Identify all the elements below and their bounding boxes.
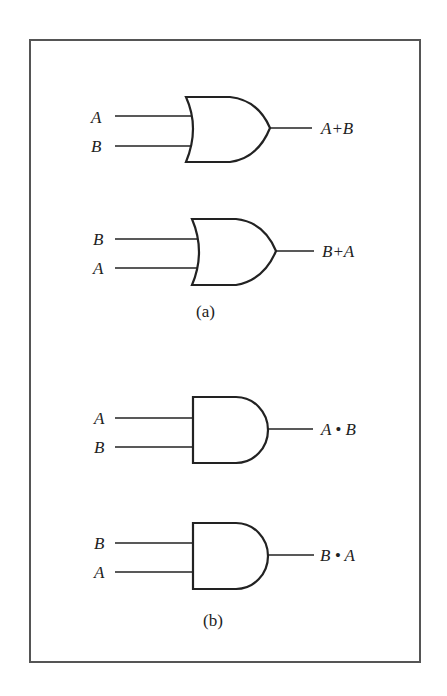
- and-gate-1: [115, 397, 313, 463]
- and1-output: A • B: [321, 421, 356, 438]
- and-gate-2: [115, 523, 314, 589]
- caption-b: (b): [203, 612, 223, 629]
- logic-diagram: [0, 0, 447, 696]
- or2-input-b: B: [93, 231, 103, 248]
- and1-input-a: A: [94, 410, 104, 427]
- or-gate-1: [115, 97, 312, 162]
- figure-frame: [30, 40, 420, 662]
- and2-input-b: B: [94, 535, 104, 552]
- and2-input-a: A: [94, 564, 104, 581]
- or2-output: B+A: [322, 243, 354, 260]
- or-gate-2: [115, 219, 314, 285]
- or1-input-a: A: [91, 109, 101, 126]
- or1-input-b: B: [91, 138, 101, 155]
- and2-output: B • A: [320, 547, 355, 564]
- or1-output: A+B: [321, 120, 353, 137]
- and1-input-b: B: [94, 439, 104, 456]
- or2-input-a: A: [93, 260, 103, 277]
- caption-a: (a): [196, 303, 215, 320]
